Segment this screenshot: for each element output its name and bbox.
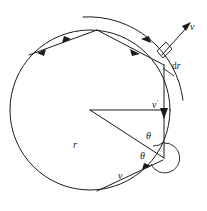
chord-top-left-arrowhead-a (62, 36, 71, 43)
figure-container: v dr v′ r θ θ v (0, 0, 207, 211)
chord-bottom-right (97, 160, 163, 191)
prime-mark: ′ (156, 98, 158, 106)
angle-lower-label: θ (140, 151, 145, 161)
velocity-outer-label: v (190, 22, 194, 32)
velocity-outer-arrow-line (162, 26, 188, 55)
dr-r-glyph: r (177, 61, 181, 71)
angle-arc-lower (151, 143, 180, 173)
chord-top-right (97, 30, 164, 65)
velocity-inner-label: v (118, 171, 122, 181)
chord-upper-right-arrowhead-a (141, 36, 151, 43)
velocity-prime-label: v′ (152, 99, 158, 110)
velocity-prime-arrowhead (160, 108, 168, 119)
diagram-canvas (0, 0, 207, 211)
radius-label: r (73, 140, 77, 150)
angle-upper-label: θ (146, 131, 151, 141)
outer-arc (83, 17, 183, 100)
radius-line (90, 110, 164, 158)
dr-label: dr (172, 62, 180, 72)
